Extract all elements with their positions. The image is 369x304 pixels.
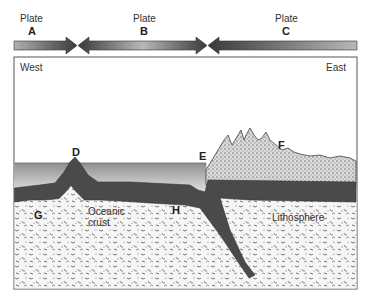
oceanic-crust-label-line1: Oceanic (88, 207, 125, 217)
marker-e: E (199, 151, 206, 162)
plate-tectonics-diagram (0, 0, 369, 304)
east-label: East (326, 63, 346, 73)
west-label: West (20, 63, 43, 73)
marker-h: H (172, 205, 180, 216)
plate-b-label: Plate (133, 14, 156, 24)
plate-c-arrow (208, 37, 357, 54)
plate-a-letter: A (28, 26, 36, 37)
plate-b-arrow (78, 37, 207, 54)
oceanic-crust-label-line2: crust (88, 218, 110, 228)
plate-a-arrow (14, 37, 77, 54)
plate-b-letter: B (140, 26, 148, 37)
plate-c-label: Plate (275, 14, 298, 24)
plate-c-letter: C (282, 26, 290, 37)
marker-d: D (72, 147, 80, 158)
plate-motion-arrows (14, 37, 357, 54)
marker-g: G (34, 210, 43, 221)
plate-a-label: Plate (20, 14, 43, 24)
lithosphere-label: Lithosphere (272, 213, 324, 223)
marker-f: F (278, 140, 285, 151)
